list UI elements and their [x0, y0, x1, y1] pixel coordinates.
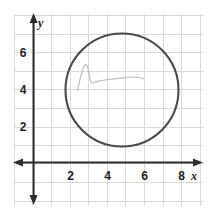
- y-tick-label-2: 2: [20, 120, 27, 134]
- x-tick-label-2: 2: [67, 169, 74, 183]
- y-tick-label-4: 4: [20, 83, 27, 97]
- graph-figure: 2 4 6 8 2 4 6 y x: [0, 0, 211, 216]
- x-tick-label-6: 6: [141, 169, 148, 183]
- x-axis-label: x: [190, 169, 197, 183]
- x-tick-label-8: 8: [178, 169, 185, 183]
- coordinate-plane-svg: 2 4 6 8 2 4 6 y x: [0, 0, 211, 216]
- y-tick-label-6: 6: [20, 46, 27, 60]
- y-axis-label: y: [36, 16, 44, 30]
- x-tick-label-4: 4: [104, 169, 111, 183]
